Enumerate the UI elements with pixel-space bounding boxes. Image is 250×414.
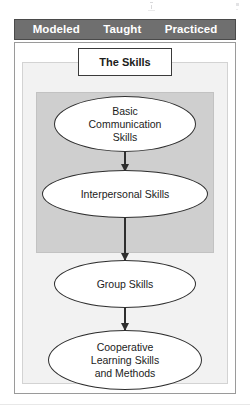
diagram-header-bar: Modeled Taught Practiced — [14, 19, 236, 40]
arrow-group-to-cooperative — [124, 308, 126, 330]
node-cooperative-learning-skills-and-methods: Cooperative Learning Skills and Methods — [48, 330, 202, 390]
scan-artifact — [150, 2, 153, 3]
header-label-modeled: Modeled — [33, 24, 80, 36]
node-label: Cooperative Learning Skills and Methods — [85, 341, 165, 380]
header-label-practiced: Practiced — [165, 24, 218, 36]
diagram-title-text: The Skills — [99, 57, 150, 68]
node-interpersonal-skills: Interpersonal Skills — [42, 170, 208, 218]
header-label-taught: Taught — [103, 24, 141, 36]
scan-artifact — [236, 3, 239, 6]
node-label: Interpersonal Skills — [75, 188, 176, 201]
node-basic-communication-skills: Basic Communication Skills — [54, 96, 196, 152]
scan-artifact — [0, 404, 250, 405]
diagram-title-box: The Skills — [78, 48, 172, 76]
node-label: Group Skills — [91, 278, 160, 291]
arrow-interpersonal-to-group — [124, 218, 126, 260]
scan-artifact — [151, 5, 152, 9]
arrow-basic-to-interpersonal — [124, 152, 126, 171]
scan-artifact — [236, 9, 238, 10]
scan-artifact — [148, 10, 155, 11]
node-label: Basic Communication Skills — [83, 105, 168, 144]
node-group-skills: Group Skills — [54, 260, 196, 308]
